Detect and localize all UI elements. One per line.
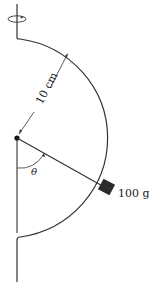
angle-label: θ bbox=[31, 166, 37, 177]
hoop-diagram: 10 cm θ 100 g bbox=[0, 0, 151, 284]
radius-label: 10 cm bbox=[33, 70, 61, 107]
mass-block bbox=[98, 179, 115, 196]
mass-label: 100 g bbox=[118, 187, 150, 200]
radius-to-block bbox=[17, 138, 106, 188]
semicircular-hoop bbox=[20, 39, 108, 237]
bottom-bend bbox=[17, 237, 20, 240]
top-bend bbox=[17, 38, 20, 39]
